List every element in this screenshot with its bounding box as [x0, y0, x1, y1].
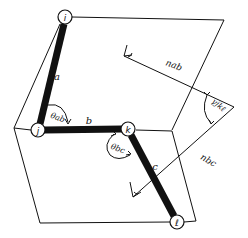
dihedral-angle-diagram: i j k ℓ a b c θab θbc γjkℓ nab nbc [0, 0, 248, 238]
bond-a [40, 24, 64, 124]
theta-bc-label: θbc [110, 142, 127, 156]
node-l-label: ℓ [174, 218, 179, 228]
gamma-label: γjkℓ [210, 97, 228, 114]
n-bc-label: nbc [199, 152, 218, 169]
bond-c-label: c [152, 161, 158, 172]
node-k-label: k [125, 125, 131, 135]
n-ab-label: nab [164, 58, 184, 73]
normal-n-bc [130, 107, 234, 197]
node-j: j [31, 123, 45, 137]
bond-b [44, 129, 122, 130]
node-i: i [58, 10, 72, 24]
bond-b-label: b [86, 115, 92, 126]
node-l: ℓ [170, 215, 184, 229]
bond-c [131, 135, 174, 216]
node-k: k [121, 122, 135, 136]
theta-ab-label: θab [49, 111, 66, 124]
bond-a-label: a [54, 71, 60, 82]
